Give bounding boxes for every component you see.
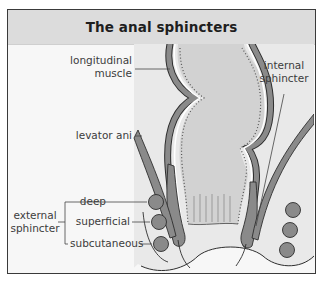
label-line: internal	[254, 59, 314, 72]
label-line: external	[10, 209, 60, 222]
label-line: sphincter	[10, 222, 60, 235]
label-line: longitudinal	[66, 54, 132, 67]
diagram-title: The anal sphincters	[86, 19, 238, 35]
label-internal-sphincter: internal sphincter	[254, 59, 314, 85]
subcutaneous-right	[280, 243, 295, 258]
subcutaneous-left	[154, 237, 169, 252]
label-external-sphincter: external sphincter	[10, 209, 60, 235]
label-levator-ani: levator ani	[58, 129, 132, 142]
label-line: sphincter	[254, 72, 314, 85]
anal-sphincter-illustration: longitudinal muscle internal sphincter l…	[8, 44, 314, 273]
label-subcutaneous: subcutaneous	[70, 237, 142, 250]
diagram-frame: The anal sphincters	[7, 9, 316, 274]
label-superficial: superficial	[58, 215, 130, 228]
label-line: muscle	[66, 67, 132, 80]
superficial-left	[152, 215, 167, 230]
deep-left	[149, 195, 164, 210]
label-longitudinal-muscle: longitudinal muscle	[66, 54, 132, 80]
superficial-right	[283, 223, 298, 238]
header: The anal sphincters	[8, 10, 315, 45]
label-deep: deep	[68, 195, 106, 208]
deep-right	[286, 203, 301, 218]
